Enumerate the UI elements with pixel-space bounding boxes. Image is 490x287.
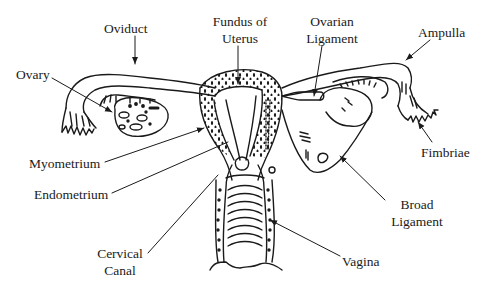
ovary-pointer [52,78,112,112]
label-fundus-line2: Uterus [205,30,275,47]
label-cervical-line1: Cervical [94,245,146,262]
label-myometrium: Myometrium [29,155,100,172]
left-ovary [115,98,169,137]
broad-ligament [269,110,372,173]
ampulla-pointer [406,40,430,60]
label-ampulla: Ampulla [418,24,465,41]
label-fundus-of-uterus: Fundus of Uterus [205,13,275,47]
fimbriae-pointer [418,122,432,142]
right-ovary [320,88,372,127]
broad-ligament-pointer [340,156,385,200]
vagina-pointer [270,220,340,256]
label-broad-ligament: Broad Ligament [383,196,451,230]
label-broad-line1: Broad [383,196,451,213]
label-endometrium: Endometrium [34,186,108,203]
cervix-vagina [210,157,282,270]
label-ovarian-line2: Ligament [298,30,366,47]
label-ovary: Ovary [16,66,50,83]
label-broad-line2: Ligament [383,213,451,230]
right-fimbriae [398,82,438,122]
cervical-canal-pointer [148,175,218,253]
leader-lines [52,36,432,256]
label-fundus-line1: Fundus of [205,13,275,30]
label-ovarian-line1: Ovarian [298,13,366,30]
label-ovarian-ligament: Ovarian Ligament [298,13,366,47]
reproductive-system-diagram: Oviduct Fundus of Uterus Ovarian Ligamen… [0,0,490,287]
label-cervical-canal: Cervical Canal [94,245,146,279]
label-oviduct: Oviduct [104,20,148,37]
label-cervical-line2: Canal [94,262,146,279]
endometrium-pointer [112,142,228,193]
label-vagina: Vagina [342,253,380,270]
left-fimbriae [62,108,96,135]
left-oviduct [66,75,215,112]
label-fimbriae: Fimbriae [421,144,470,161]
